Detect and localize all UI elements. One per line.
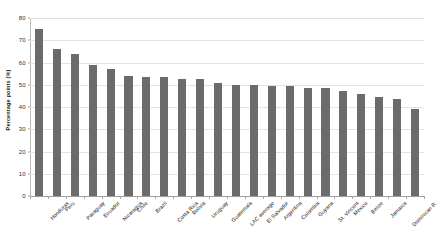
bar bbox=[411, 109, 419, 196]
bar bbox=[357, 94, 365, 196]
bar bbox=[286, 86, 294, 196]
x-axis-label: Guatemala bbox=[229, 200, 252, 223]
bar bbox=[268, 86, 276, 196]
bar bbox=[304, 88, 312, 196]
x-tick-mark bbox=[155, 196, 156, 199]
x-axis-label: Jamaica bbox=[389, 200, 408, 219]
x-tick-mark bbox=[227, 196, 228, 199]
x-tick-mark bbox=[191, 196, 192, 199]
x-axis-labels: HondurasPeruParaguayEcuadorNicaraguaChil… bbox=[30, 200, 424, 249]
x-tick-mark bbox=[66, 196, 67, 199]
y-tick-label-80: 80 bbox=[19, 15, 26, 21]
y-tick-label-10: 10 bbox=[19, 171, 26, 177]
x-tick-mark bbox=[173, 196, 174, 199]
x-axis-label: Brazil bbox=[154, 200, 168, 214]
x-tick-mark bbox=[281, 196, 282, 199]
x-tick-mark bbox=[263, 196, 264, 199]
bar bbox=[321, 88, 329, 196]
bar bbox=[53, 49, 61, 196]
x-tick-mark bbox=[120, 196, 121, 199]
bar bbox=[214, 83, 222, 196]
bar bbox=[178, 79, 186, 196]
x-tick-mark bbox=[299, 196, 300, 199]
x-tick-mark bbox=[245, 196, 246, 199]
y-tick-label-20: 20 bbox=[19, 149, 26, 155]
bar-series bbox=[30, 18, 424, 196]
x-tick-mark bbox=[424, 196, 425, 199]
x-tick-mark bbox=[388, 196, 389, 199]
bar bbox=[89, 65, 97, 196]
bar bbox=[339, 91, 347, 196]
y-tick-label-40: 40 bbox=[19, 104, 26, 110]
bar bbox=[71, 54, 79, 196]
x-tick-mark bbox=[334, 196, 335, 199]
x-axis-label: Uruguay bbox=[210, 200, 229, 219]
y-axis-ticks: 01020304050607080 bbox=[0, 0, 30, 249]
x-tick-mark bbox=[30, 196, 31, 199]
x-tick-mark bbox=[84, 196, 85, 199]
bar bbox=[142, 77, 150, 196]
x-tick-mark bbox=[102, 196, 103, 199]
bar bbox=[375, 97, 383, 196]
x-tick-mark bbox=[370, 196, 371, 199]
x-axis-label: Dominican R. bbox=[410, 200, 438, 228]
x-tick-mark bbox=[406, 196, 407, 199]
y-tick-label-0: 0 bbox=[22, 193, 25, 199]
bar bbox=[250, 85, 258, 196]
x-tick-mark bbox=[209, 196, 210, 199]
x-tick-mark bbox=[48, 196, 49, 199]
bar bbox=[393, 99, 401, 196]
x-axis-label: Colombia bbox=[300, 200, 321, 221]
bar bbox=[35, 29, 43, 196]
bar bbox=[107, 69, 115, 196]
x-axis-label: Belize bbox=[369, 200, 384, 215]
x-tick-mark bbox=[317, 196, 318, 199]
plot-area bbox=[30, 18, 424, 196]
y-tick-label-70: 70 bbox=[19, 37, 26, 43]
bar bbox=[160, 77, 168, 196]
y-tick-label-60: 60 bbox=[19, 60, 26, 66]
x-axis-label: Paraguay bbox=[85, 200, 106, 221]
x-tick-mark bbox=[352, 196, 353, 199]
bar bbox=[196, 79, 204, 196]
y-tick-label-50: 50 bbox=[19, 82, 26, 88]
y-tick-label-30: 30 bbox=[19, 126, 26, 132]
x-tick-mark bbox=[137, 196, 138, 199]
bar bbox=[232, 85, 240, 196]
bar bbox=[124, 76, 132, 196]
